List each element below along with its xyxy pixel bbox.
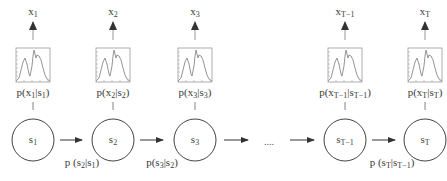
observation-label-T-1: xT−1	[336, 6, 355, 19]
transition-label-T-1-T: p (sT|sT−1)	[370, 157, 415, 170]
obs-sub: 1	[34, 10, 38, 19]
state-label-3: s3	[191, 134, 199, 147]
emission-histogram-T	[408, 48, 442, 82]
emission-histogram-2	[96, 48, 130, 82]
state-label-T-1: sT−1	[336, 134, 354, 147]
state-label-T: sT	[420, 134, 429, 147]
emission-histogram-3	[178, 48, 212, 82]
obs-sub: 2	[114, 10, 118, 19]
emission-label-1: p(x1|s1)	[17, 87, 50, 100]
observation-label-3: x3	[190, 6, 200, 19]
hmm-diagram-canvas	[0, 0, 447, 181]
obs-sub: 3	[196, 10, 200, 19]
emission-label-T: p(xT|sT)	[408, 87, 443, 100]
observation-label-2: x2	[108, 6, 118, 19]
transition-label-1-2: p (s2|s1)	[65, 157, 99, 170]
emission-label-2: p(x2|s2)	[97, 87, 130, 100]
observation-label-T: xT	[420, 6, 430, 19]
sequence-ellipsis: ....	[264, 136, 274, 147]
state-label-2: s2	[109, 134, 117, 147]
emission-label-3: p(x3|s3)	[179, 87, 212, 100]
transition-label-2-3: p(s3|s2)	[146, 157, 178, 170]
emission-histogram-T-1	[328, 48, 362, 82]
emission-histogram-1	[16, 48, 50, 82]
obs-sub: T−1	[341, 10, 354, 19]
obs-sub: T	[425, 10, 430, 19]
emission-label-T-1: p(xT−1|sT−1)	[319, 87, 371, 100]
observation-label-1: x1	[28, 6, 38, 19]
state-label-1: s1	[29, 134, 37, 147]
